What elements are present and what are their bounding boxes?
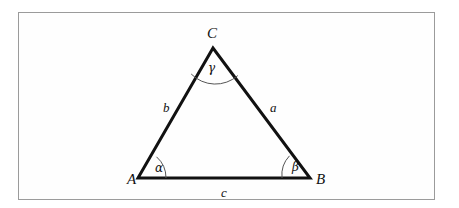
side-label-b: b [163, 101, 170, 114]
vertex-label-c: C [207, 26, 217, 41]
side-label-c: c [221, 186, 227, 199]
angle-label-beta: β [292, 161, 299, 173]
vertex-label-a: A [127, 172, 136, 187]
side-label-a: a [270, 101, 277, 114]
vertex-label-b: B [316, 172, 325, 187]
angle-label-alpha: α [155, 162, 163, 174]
triangle-diagram [0, 0, 459, 208]
angle-arc-beta [282, 156, 290, 178]
figure-screenshot: A B C a b c α β γ [0, 0, 459, 208]
angle-label-gamma: γ [208, 62, 215, 74]
